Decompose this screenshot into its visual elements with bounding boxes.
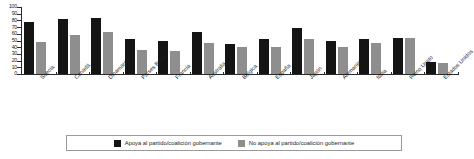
bar-group: [290, 7, 324, 74]
bar: [405, 38, 415, 74]
bar: [58, 19, 68, 74]
y-tick-mark: [17, 7, 21, 8]
legend-label-support: Apoya al partido/coalición gobernante: [125, 140, 222, 147]
bar: [292, 28, 302, 74]
y-tick-label: 20: [2, 58, 17, 63]
bar: [359, 39, 369, 74]
y-tick-label: 40: [2, 45, 17, 50]
y-tick-mark: [17, 41, 21, 42]
bar: [304, 39, 314, 74]
x-axis-line: [21, 74, 458, 75]
legend-entry-nosupport: No apoya al partido/coalición gobernante: [238, 140, 354, 147]
y-tick-label: 10: [2, 65, 17, 70]
y-tick-label: 80: [2, 18, 17, 23]
y-axis-tick-labels: 0102030405060708090100: [2, 4, 17, 76]
bar-group: [357, 7, 391, 74]
x-axis-category-labels: SueciaCanadáDinamarcaPaíses BajosFrancia…: [22, 76, 458, 124]
y-tick-mark: [17, 34, 21, 35]
y-tick-label: 30: [2, 51, 17, 56]
gray-square-icon: [238, 140, 245, 147]
y-tick-label: 60: [2, 31, 17, 36]
y-tick-mark: [17, 67, 21, 68]
y-tick-mark: [17, 47, 21, 48]
y-tick-mark: [17, 74, 21, 75]
bar: [259, 39, 269, 74]
y-tick-label: 100: [2, 4, 17, 9]
bar: [326, 41, 336, 74]
y-tick-label: 50: [2, 38, 17, 43]
y-tick-label: 70: [2, 25, 17, 30]
y-tick-mark: [17, 61, 21, 62]
bar: [103, 32, 113, 74]
y-tick-mark: [17, 27, 21, 28]
y-tick-mark: [17, 54, 21, 55]
y-tick-label: 90: [2, 11, 17, 16]
x-tick-mark: [458, 72, 459, 75]
y-tick-label: 0: [2, 71, 17, 76]
chart-legend: Apoya al partido/coalición gobernante No…: [66, 135, 402, 151]
y-tick-mark: [17, 20, 21, 21]
bar: [24, 22, 34, 74]
bar: [70, 35, 80, 74]
black-square-icon: [114, 140, 121, 147]
bar: [91, 18, 101, 74]
bar: [192, 32, 202, 74]
bar: [225, 44, 235, 74]
plot-area: 0102030405060708090100: [0, 0, 464, 80]
legend-label-nosupport: No apoya al partido/coalición gobernante: [249, 140, 354, 147]
y-tick-mark: [17, 14, 21, 15]
legend-entry-support: Apoya al partido/coalición gobernante: [114, 140, 222, 147]
bar: [393, 38, 403, 74]
